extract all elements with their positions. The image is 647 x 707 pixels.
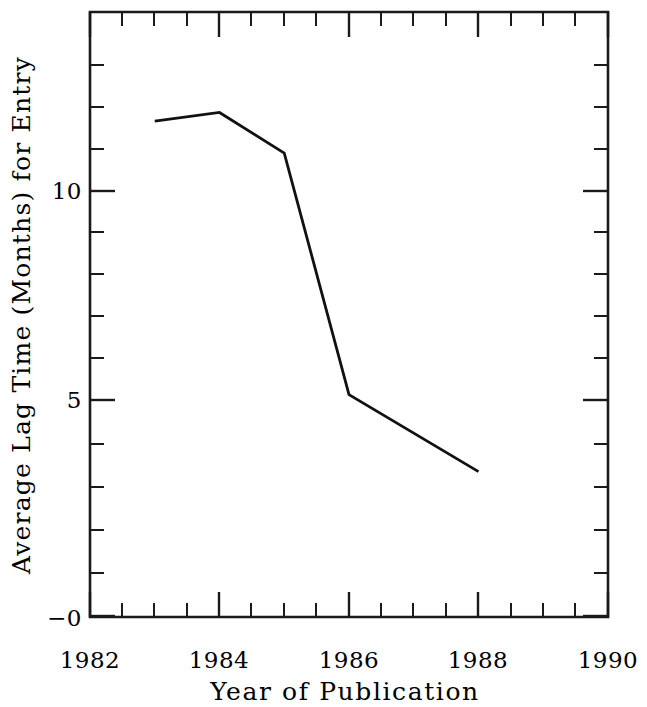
y-tick-label-10: 10 xyxy=(52,178,82,204)
x-axis-title: Year of Publication xyxy=(209,677,480,706)
chart-figure: 10 5 −0 1982 1984 1986 1988 1990 Year of… xyxy=(0,0,647,707)
x-tick-label-1986: 1986 xyxy=(319,647,380,673)
y-axis-title: Average Lag Time (Months) for Entry xyxy=(7,56,36,575)
x-tick-label-1990: 1990 xyxy=(578,647,639,673)
plot-area-background xyxy=(90,12,608,617)
y-tick-label-0: −0 xyxy=(47,605,82,631)
x-tick-label-1982: 1982 xyxy=(60,647,121,673)
x-tick-label-1984: 1984 xyxy=(189,647,250,673)
x-tick-label-1988: 1988 xyxy=(448,647,509,673)
line-chart-svg: 10 5 −0 1982 1984 1986 1988 1990 Year of… xyxy=(0,0,647,707)
y-tick-label-5: 5 xyxy=(67,387,82,413)
